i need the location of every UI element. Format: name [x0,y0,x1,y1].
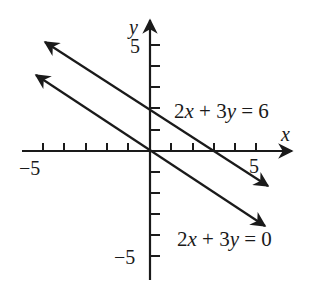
x-axis-label: x [280,123,290,145]
equation-label-lower: 2x + 3y = 0 [177,227,272,251]
equation-label-upper: 2x + 3y = 6 [174,99,269,123]
x-max-label: 5 [249,155,259,177]
x-min-label: −5 [19,157,40,179]
coordinate-plane: y x 5 −5 −5 5 2x + 3y = 6 2x + 3y = 0 [0,0,323,290]
y-min-label: −5 [114,246,135,268]
y-max-label: 5 [130,35,140,57]
